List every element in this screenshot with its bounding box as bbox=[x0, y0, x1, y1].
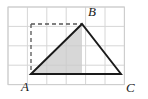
geometry-figure: ABC bbox=[0, 0, 148, 99]
geometry-canvas: ABC bbox=[0, 0, 148, 99]
label-a: A bbox=[20, 79, 29, 94]
label-b: B bbox=[88, 4, 96, 19]
label-c: C bbox=[126, 80, 135, 95]
